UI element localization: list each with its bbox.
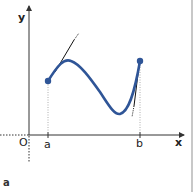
tick-label-a: a: [44, 139, 51, 150]
graph-canvas: [0, 0, 194, 192]
origin-label: O: [19, 137, 28, 148]
figure-caption: a: [3, 177, 10, 188]
function-graph-figure: y x O a b a: [0, 0, 194, 192]
tick-label-b: b: [136, 138, 143, 149]
x-axis-label: x: [175, 137, 182, 148]
endpoint-a: [45, 78, 51, 84]
y-axis-label: y: [18, 12, 25, 23]
tangent-line-at-b-dotted: [132, 106, 134, 117]
right-border-divider: [191, 0, 193, 192]
tangent-line-at-a-dotted: [74, 33, 79, 40]
function-curve: [48, 60, 140, 114]
endpoint-b: [137, 58, 143, 64]
